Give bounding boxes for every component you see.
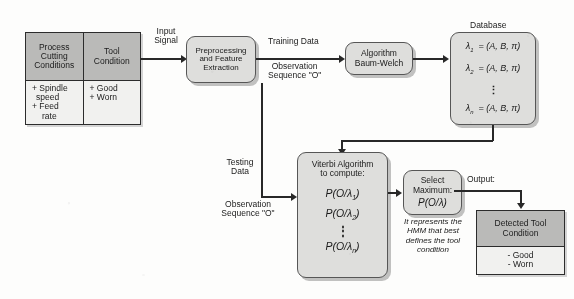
connector-training-data bbox=[256, 58, 341, 60]
table-column-tool-condition: Tool Condition + Good + Worn bbox=[83, 33, 141, 124]
box-line: Extraction bbox=[203, 64, 239, 73]
note-line: defines the tool bbox=[389, 236, 477, 245]
edge-label-training-data: Training Data bbox=[268, 37, 319, 46]
viterbi-box: Viterbi Algorithm to compute: P(O/λ1) P(… bbox=[297, 152, 388, 278]
edge-label-testing-data: Testing Data bbox=[222, 158, 258, 177]
label-line: Signal bbox=[147, 36, 185, 45]
arrowhead-select-maximum-in bbox=[396, 189, 402, 197]
note-line: HMM that best bbox=[389, 226, 477, 235]
label-line: Output: bbox=[467, 175, 495, 184]
select-maximum-note: It represents the HMM that best defines … bbox=[389, 217, 477, 255]
baum-welch-box: Algorithm Baum-Welch bbox=[345, 42, 413, 75]
label-line: Sequence "O" bbox=[202, 209, 294, 218]
viterbi-expression: P(O/λ1) bbox=[325, 188, 359, 202]
note-line: condition bbox=[389, 245, 477, 254]
database-ellipsis: ⋮ bbox=[488, 87, 499, 93]
label-line: Data bbox=[222, 167, 258, 176]
arrowhead-detected-condition-in bbox=[517, 203, 525, 209]
header-line: Conditions bbox=[34, 61, 74, 70]
database-box: λ1 = (A, B, π) λ2 = (A, B, π) ⋮ λn = (A,… bbox=[450, 32, 536, 125]
box-line: to compute: bbox=[320, 169, 364, 178]
select-maximum-expression: P(O/λ) bbox=[418, 198, 447, 209]
viterbi-ellipsis: ⋮ bbox=[337, 228, 349, 235]
list-item: rate bbox=[32, 112, 57, 121]
table-header-process-cutting-conditions: Process Cutting Conditions bbox=[26, 33, 83, 81]
arrowhead-database-in bbox=[443, 55, 449, 63]
viterbi-expression: P(O/λ2) bbox=[325, 208, 359, 222]
connector-input-to-preprocessing bbox=[141, 58, 183, 60]
box-line: Maximum: bbox=[413, 186, 452, 195]
table-cell-tool-condition: + Good + Worn bbox=[84, 81, 141, 124]
header-line: Condition bbox=[503, 229, 539, 238]
table-column-process-cutting-conditions: Process Cutting Conditions + Spindle spe… bbox=[26, 33, 83, 124]
detected-tool-condition-header: Detected Tool Condition bbox=[477, 211, 564, 247]
select-maximum-box: Select Maximum: P(O/λ) bbox=[403, 170, 462, 215]
label-line: Sequence "O" bbox=[268, 71, 321, 80]
database-row: λ2 = (A, B, π) bbox=[466, 64, 521, 75]
table-header-tool-condition: Tool Condition bbox=[84, 33, 141, 81]
connector-output bbox=[454, 190, 522, 192]
header-line: Condition bbox=[94, 57, 130, 66]
connector-database-left bbox=[341, 140, 493, 142]
edge-label-training-observation: Observation Sequence "O" bbox=[268, 62, 321, 81]
note-line: It represents the bbox=[389, 217, 477, 226]
connector-output-down bbox=[520, 190, 522, 204]
box-line: Baum-Welch bbox=[355, 59, 404, 68]
edge-label-output: Output: bbox=[467, 175, 495, 184]
database-row: λn = (A, B, π) bbox=[466, 104, 521, 115]
viterbi-expression: P(O/λn) bbox=[325, 241, 359, 255]
edge-label-input-signal: Input Signal bbox=[147, 27, 185, 46]
preprocessing-box: Preprocessing and Feature Extraction bbox=[186, 36, 256, 83]
diagram-canvas: Process Cutting Conditions + Spindle spe… bbox=[0, 0, 574, 299]
database-row: λ1 = (A, B, π) bbox=[466, 42, 521, 53]
detected-tool-condition-body: - Good - Worn bbox=[477, 247, 564, 274]
connector-testing-data bbox=[261, 83, 263, 197]
detected-tool-condition-table: Detected Tool Condition - Good - Worn bbox=[476, 210, 565, 275]
list-item: - Worn bbox=[508, 260, 533, 269]
input-conditions-table: Process Cutting Conditions + Spindle spe… bbox=[25, 32, 141, 125]
edge-label-testing-observation: Observation Sequence "O" bbox=[202, 200, 294, 219]
connector-database-down bbox=[492, 125, 494, 141]
connector-baum-welch-to-database bbox=[413, 58, 445, 60]
label-line: Database bbox=[470, 21, 506, 30]
connector-testing-to-viterbi bbox=[261, 196, 294, 198]
table-cell-process-cutting-conditions: + Spindle speed + Feed rate bbox=[26, 81, 83, 124]
label-line: Training Data bbox=[268, 37, 319, 46]
database-caption: Database bbox=[470, 21, 506, 30]
list-item: + Worn bbox=[90, 93, 117, 102]
